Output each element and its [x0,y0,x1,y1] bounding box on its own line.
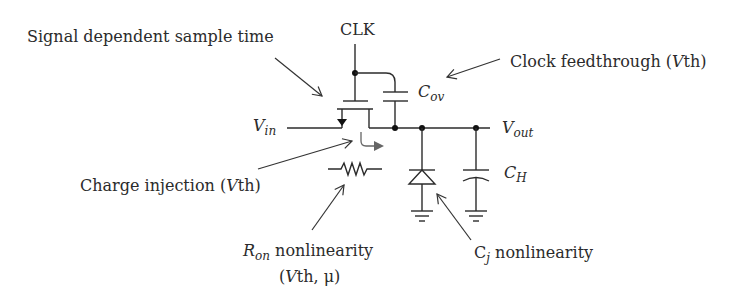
ground-icon [411,211,433,221]
sample-time-arrow [275,58,322,96]
clock-feedthrough-arrow [447,59,500,77]
ron-arrow [312,185,344,230]
overlap-capacitor-icon [383,92,408,128]
sample-time-label: Signal dependent sample time [27,27,274,46]
cj-label: Cj nonlinearity [474,243,593,265]
ch-label: CH [504,163,527,185]
clock-feedthrough-label: Clock feedthrough (Vth) [510,52,707,71]
junction-diode-icon [409,128,435,211]
charge-injection-label: Charge injection (Vth) [80,176,261,195]
ground-icon [465,211,487,221]
ron-label: Ron nonlinearity [242,241,373,263]
sample-hold-diagram: CLK Cov Vin Vout [0,0,749,302]
ron-params-label: (Vth, μ) [279,267,340,286]
cj-arrow [437,194,471,240]
vout-label: Vout [502,118,534,140]
vin-label: Vin [253,116,276,138]
hold-capacitor-icon [463,128,489,211]
nmos-switch-icon [337,101,373,128]
cov-label: Cov [418,82,444,104]
clk-label: CLK [340,20,376,39]
output-wire [369,125,490,131]
on-resistance-icon [328,163,382,175]
charge-flow-icon [361,132,384,151]
charge-injection-arrow [258,141,352,169]
